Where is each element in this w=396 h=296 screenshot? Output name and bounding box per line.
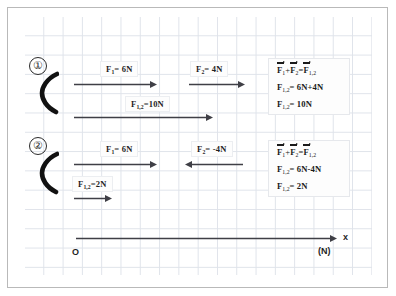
force-arrow-row1-f1 bbox=[74, 80, 158, 89]
resultant-arrow-row1 bbox=[74, 113, 214, 122]
force-label-row2-f1: F1= 6N bbox=[100, 141, 138, 157]
result-box-row-1: F1+F2=F1,2 F1,2= 6N+4N F1,2= 10N bbox=[268, 58, 350, 115]
force-arrow-row1-f2 bbox=[189, 80, 246, 89]
force-arrow-row2-f1 bbox=[74, 160, 158, 169]
result-box-row-2: F1+F2=F1,2 F1,2= 6N-4N F1,2= 2N bbox=[268, 140, 350, 197]
origin-label: O bbox=[72, 247, 79, 257]
force-label-row1-f2: F2= 4N bbox=[190, 61, 228, 77]
axis-unit-label: (N) bbox=[318, 246, 331, 256]
x-axis-name-label: x bbox=[343, 232, 348, 242]
force-arrow-row2-f2 bbox=[185, 160, 243, 169]
force-label-row2-f2: F2= -4N bbox=[191, 141, 233, 157]
result-row1-line-1: F1+F2=F1,2 bbox=[277, 65, 342, 75]
result-row2-line-1: F1+F2=F1,2 bbox=[277, 147, 342, 157]
force-label-row1-f1: F1= 6N bbox=[100, 61, 138, 77]
resultant-arrow-row2 bbox=[74, 194, 113, 203]
result-row2-line-3: F1,2= 2N bbox=[277, 181, 342, 191]
force-diagram-figure: ① F1= 6N F2= 4N F1,2= bbox=[0, 0, 396, 296]
result-row1-line-2: F1,2= 6N+4N bbox=[277, 82, 342, 92]
x-axis-arrow bbox=[76, 234, 338, 243]
result-row2-line-2: F1,2= 6N-4N bbox=[277, 164, 342, 174]
result-row1-line-3: F1,2= 10N bbox=[277, 99, 342, 109]
brace-arc-row-2 bbox=[37, 150, 59, 196]
brace-arc-row-1 bbox=[37, 70, 59, 116]
resultant-label-row1: F1,2=10N bbox=[125, 96, 170, 112]
resultant-label-row2: F1,2=2N bbox=[72, 176, 113, 192]
